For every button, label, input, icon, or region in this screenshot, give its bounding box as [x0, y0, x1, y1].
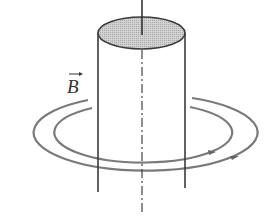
field-label-b: B — [67, 77, 79, 96]
cylinder-magnetic-field-diagram: B — [0, 0, 269, 224]
outer-field-line — [34, 98, 258, 171]
inner-field-line — [54, 107, 232, 163]
field-lines — [34, 98, 258, 171]
diagram-canvas — [0, 0, 269, 224]
outer-arrow-icon — [230, 156, 239, 160]
